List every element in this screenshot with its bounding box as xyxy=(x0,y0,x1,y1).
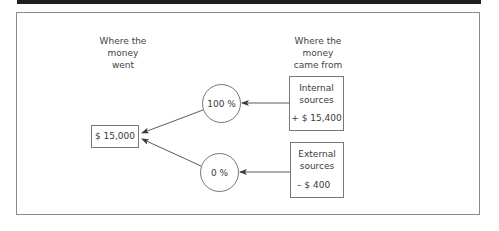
internal-title: Internal xyxy=(290,82,343,94)
total-box: $ 15,000 xyxy=(91,125,139,148)
heading-line: came from xyxy=(273,59,363,71)
external-title: sources xyxy=(291,160,343,172)
arrow-external-share-to-total xyxy=(142,139,201,166)
heading-line: money xyxy=(78,47,168,59)
heading-line: went xyxy=(78,59,168,71)
heading-line: Where the xyxy=(273,35,363,47)
internal-amount: + $ 15,400 xyxy=(290,112,343,124)
internal-title: sources xyxy=(290,94,343,106)
heading-where-money-went: Where the money went xyxy=(78,35,168,71)
total-amount: $ 15,000 xyxy=(92,126,138,147)
external-share-circle: 0 % xyxy=(200,153,239,192)
heading-where-money-came-from: Where the money came from xyxy=(273,35,363,71)
internal-sources-box: Internal sources + $ 15,400 xyxy=(289,76,344,131)
arrow-internal-share-to-total xyxy=(142,110,203,133)
heading-line: money xyxy=(273,47,363,59)
external-title: External xyxy=(291,148,343,160)
internal-share-value: 100 % xyxy=(207,99,236,109)
connector-lines xyxy=(0,0,499,231)
heading-line: Where the xyxy=(78,35,168,47)
internal-share-circle: 100 % xyxy=(202,84,241,123)
external-share-value: 0 % xyxy=(211,168,228,178)
external-amount: – $ 400 xyxy=(291,179,343,191)
external-sources-box: External sources – $ 400 xyxy=(290,142,344,198)
